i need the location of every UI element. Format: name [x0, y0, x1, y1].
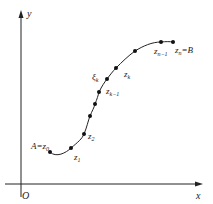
point-xi-k: [105, 77, 109, 81]
label-z-k-minus-1: zk−1: [105, 86, 119, 97]
point-p4: [93, 102, 97, 106]
origin-label: O: [22, 190, 29, 201]
x-axis-arrow-icon: [195, 182, 203, 187]
point-z1: [69, 146, 73, 150]
point-z-n: [171, 40, 175, 44]
x-axis-label: x: [195, 190, 201, 201]
axes: y x O: [5, 8, 203, 201]
point-p3: [88, 114, 92, 118]
point-z-n-minus-1: [159, 40, 163, 44]
label-z1: z1: [73, 152, 81, 163]
label-xi-k: ξk: [92, 72, 99, 83]
label-z2: z2: [87, 131, 95, 142]
label-end: zn=B: [174, 45, 194, 56]
partition-points: [48, 40, 175, 154]
point-labels: A=z0 z1 z2 ξk zk−1 zk zn−1 zn=B: [30, 45, 194, 163]
y-axis-arrow-icon: [19, 10, 24, 18]
curve-path: [50, 42, 173, 155]
point-z2: [82, 132, 86, 136]
label-start: A=z0: [30, 141, 49, 152]
point-z-k-minus-1: [97, 90, 101, 94]
point-p8: [133, 49, 137, 53]
point-z-k: [114, 66, 118, 70]
label-z-k: zk: [123, 69, 131, 80]
y-axis-label: y: [26, 8, 32, 19]
curve-diagram: y x O A=z0 z1 z2 ξk zk−1: [0, 0, 213, 204]
label-z-n-minus-1: zn−1: [153, 46, 168, 57]
